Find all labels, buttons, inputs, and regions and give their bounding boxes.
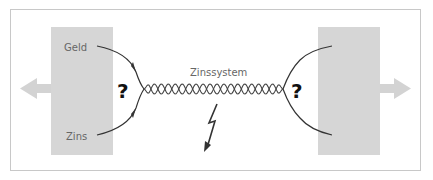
system-label: Zinssystem (190, 67, 247, 78)
diagram: Geld Zins Zinssystem ? ? (0, 0, 433, 180)
question-mark-left: ? (117, 79, 129, 103)
geld-label: Geld (64, 42, 87, 53)
right-box (318, 27, 380, 155)
question-mark-right: ? (291, 79, 303, 103)
zins-label: Zins (66, 131, 87, 142)
